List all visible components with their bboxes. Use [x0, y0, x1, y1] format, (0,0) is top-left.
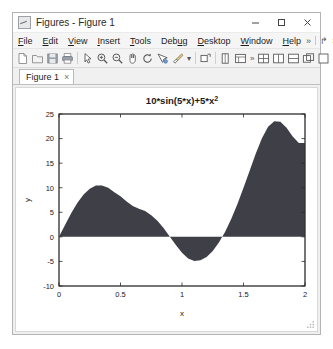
menu-right-divider [315, 36, 316, 45]
y-tick-label: -5 [47, 257, 54, 266]
plot-title: 10*sin(5*x)+5*x2 [146, 95, 218, 107]
tab-strip: Figure 1 × [13, 68, 320, 85]
menu-view-rest: iew [74, 36, 88, 46]
arrow-pointer-icon[interactable] [80, 51, 95, 66]
legend-icon[interactable] [233, 51, 248, 66]
menu-tools[interactable]: Tools [125, 36, 156, 46]
menu-edit[interactable]: Edit [38, 36, 64, 46]
zoom-out-icon[interactable] [110, 51, 125, 66]
tab-figure-1-label: Figure 1 [26, 72, 59, 82]
colorbar-icon[interactable] [218, 51, 233, 66]
maximize-button[interactable] [268, 13, 294, 32]
menu-help[interactable]: Help [278, 36, 307, 46]
menu-file[interactable]: File [13, 36, 38, 46]
menu-insert[interactable]: Insert [92, 36, 125, 46]
menu-window-rest: indow [249, 36, 273, 46]
figure-window: Figures - Figure 1 File Edit View Insert… [12, 12, 321, 335]
menu-view[interactable]: View [63, 36, 92, 46]
toolbar: ▾ » [13, 49, 320, 68]
y-tick-label: 25 [46, 110, 54, 119]
menu-overflow-button[interactable]: » [306, 36, 311, 46]
menu-right-controls: » ↱ × [306, 36, 333, 46]
zoom-in-icon[interactable] [95, 51, 110, 66]
y-tick-label: -10 [43, 282, 54, 291]
plot-svg: 10*sin(5*x)+5*x2 -10-50510152025 00.511.… [16, 88, 318, 327]
x-axis-label: x [180, 309, 184, 318]
float-window-icon[interactable] [301, 51, 316, 66]
y-tick-label: 0 [50, 233, 54, 242]
data-cursor-icon[interactable] [155, 51, 170, 66]
tab-figure-1[interactable]: Figure 1 × [19, 69, 74, 84]
menu-file-rest: ile [24, 36, 33, 46]
menu-desktop[interactable]: Desktop [193, 36, 236, 46]
title-bar: Figures - Figure 1 [13, 13, 320, 33]
menu-window[interactable]: Window [236, 36, 278, 46]
window-controls [242, 13, 320, 32]
plot-title-exponent: 2 [214, 95, 218, 102]
resize-grip-icon[interactable] [305, 319, 315, 329]
save-disk-icon[interactable] [45, 51, 60, 66]
menu-tools-rest: ools [134, 36, 151, 46]
y-tick-label: 20 [46, 134, 54, 143]
menu-desktop-rest: esktop [204, 36, 231, 46]
y-axis-label: y [23, 198, 32, 202]
menu-window-mnemonic: W [241, 36, 250, 46]
menu-debug-pre: Deb [161, 36, 178, 46]
toolbar-overflow-button[interactable]: » [248, 54, 256, 63]
menu-help-rest: elp [289, 36, 301, 46]
x-tick-label: 1.5 [238, 290, 248, 299]
link-icon[interactable] [198, 51, 213, 66]
new-document-icon[interactable] [15, 51, 30, 66]
menu-insert-rest: nsert [100, 36, 120, 46]
close-button[interactable] [294, 13, 320, 32]
undock-button[interactable]: ↱ [320, 36, 328, 46]
y-tick-label: 5 [50, 208, 54, 217]
toolbar-divider-1 [77, 52, 78, 64]
matlab-figure-icon [18, 16, 31, 29]
hand-pan-icon[interactable] [125, 51, 140, 66]
window-title: Figures - Figure 1 [36, 17, 242, 28]
menu-debug-rest: g [182, 36, 187, 46]
maximize-panel-icon[interactable] [316, 51, 331, 66]
open-folder-icon[interactable] [30, 51, 45, 66]
y-tick-label: 10 [46, 184, 54, 193]
menu-edit-rest: dit [49, 36, 59, 46]
minimize-button[interactable] [242, 13, 268, 32]
x-tick-label: 0 [57, 290, 61, 299]
menu-bar: File Edit View Insert Tools Debug Deskto… [13, 33, 320, 49]
figure-canvas[interactable]: 10*sin(5*x)+5*x2 -10-50510152025 00.511.… [15, 87, 318, 332]
plot-title-base: 10*sin(5*x)+5*x [146, 95, 215, 106]
rotate-3d-icon[interactable] [140, 51, 155, 66]
x-tick-label: 0.5 [115, 290, 125, 299]
menu-debug[interactable]: Debug [156, 36, 193, 46]
toolbar-divider-2 [195, 52, 196, 64]
toolbar-dropdown-arrow[interactable]: ▾ [185, 54, 193, 63]
split-vertical-icon[interactable] [271, 51, 286, 66]
brush-icon[interactable] [170, 51, 185, 66]
y-tick-label: 15 [46, 159, 54, 168]
printer-icon[interactable] [60, 51, 75, 66]
x-tick-label: 2 [303, 290, 307, 299]
grid-layout-icon[interactable] [256, 51, 271, 66]
x-tick-label: 1 [180, 290, 184, 299]
split-horizontal-icon[interactable] [286, 51, 301, 66]
toolbar-divider-3 [215, 52, 216, 64]
tab-close-icon[interactable]: × [64, 73, 69, 82]
